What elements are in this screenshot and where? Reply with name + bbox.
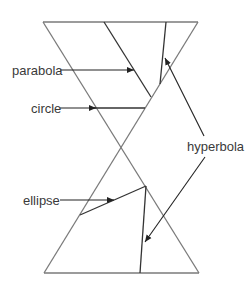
label-hyperbola: hyperbola xyxy=(187,140,244,153)
hyperbola-lower-cut xyxy=(140,186,146,273)
label-ellipse: ellipse xyxy=(23,194,60,207)
label-circle: circle xyxy=(31,102,61,115)
parabola-cut xyxy=(104,22,151,97)
hyperbola-arrow-upper xyxy=(165,58,204,136)
double-cone xyxy=(43,22,199,273)
label-parabola: parabola xyxy=(12,64,63,77)
